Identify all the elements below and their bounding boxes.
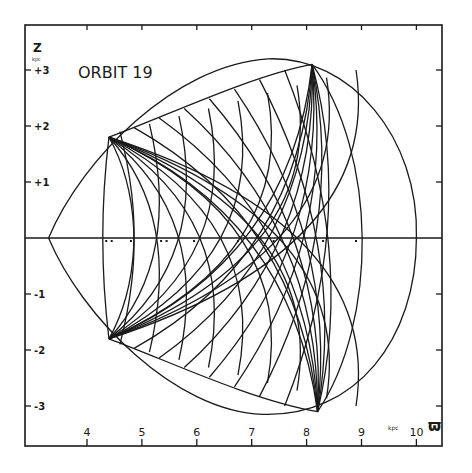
z-axis-unit: kpc (32, 56, 41, 63)
y-tick-label: +2 (34, 121, 49, 132)
x-tick-label: 9 (358, 426, 365, 439)
x-tick-label: 6 (193, 426, 200, 439)
y-tick-label: -2 (34, 345, 45, 356)
orbit-plot: 45678910+3+2+1-1-2-3 ORBIT 19 Z kpc kpc … (0, 0, 472, 473)
z-axis-label: Z (33, 41, 42, 55)
x-tick-label: 10 (409, 426, 423, 439)
x-tick-label: 4 (84, 426, 91, 439)
y-tick-label: -3 (34, 401, 45, 412)
x-tick-label: 5 (138, 426, 145, 439)
y-tick-label: -1 (34, 289, 45, 300)
orbit-curves (49, 59, 417, 415)
y-tick-label: +3 (34, 65, 49, 76)
x-axis-unit: kpc (388, 424, 399, 432)
x-tick-label: 8 (303, 426, 310, 439)
x-tick-label: 7 (248, 426, 255, 439)
y-tick-label: +1 (34, 177, 49, 188)
x-axis-symbol: ϖ (428, 417, 441, 435)
chart-title: ORBIT 19 (78, 63, 153, 82)
